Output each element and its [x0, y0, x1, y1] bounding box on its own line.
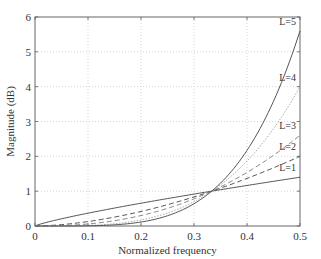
y-tick-label: 6 — [26, 11, 32, 23]
series-line-l5 — [35, 31, 300, 226]
series-line-l1 — [35, 177, 300, 226]
x-tick-label: 0.1 — [81, 230, 95, 242]
x-tick-label: 0.3 — [187, 230, 201, 242]
y-tick-label: 1 — [26, 185, 32, 197]
series-line-l3 — [35, 135, 300, 226]
x-tick-label: 0 — [32, 230, 38, 242]
y-tick-label: 0 — [26, 220, 32, 232]
chart: 00.10.20.30.40.50123456L=1L=2L=3L=4L=5No… — [0, 0, 321, 259]
y-axis-title: Magnitude (dB) — [4, 86, 17, 157]
y-tick-label: 2 — [26, 150, 32, 162]
y-tick-label: 5 — [26, 46, 32, 58]
x-tick-label: 0.5 — [293, 230, 307, 242]
series-label: L=2 — [279, 141, 296, 152]
series-label: L=1 — [279, 162, 296, 173]
x-tick-label: 0.2 — [134, 230, 148, 242]
x-tick-label: 0.4 — [240, 230, 254, 242]
y-tick-label: 3 — [26, 116, 32, 128]
x-axis-title: Normalized frequency — [118, 244, 217, 256]
y-tick-label: 4 — [26, 81, 32, 93]
series-label: L=5 — [279, 16, 296, 27]
series-label: L=3 — [279, 120, 296, 131]
